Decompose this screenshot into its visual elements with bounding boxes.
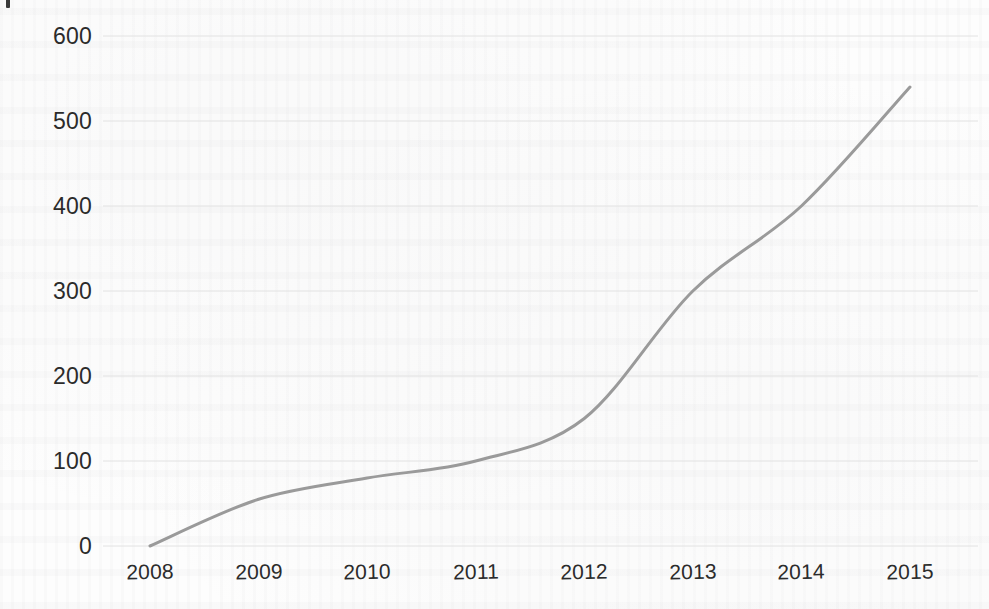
y-tick-label-200: 200 bbox=[0, 363, 92, 390]
y-tick-label-0: 0 bbox=[0, 533, 92, 560]
x-tick-label-2012: 2012 bbox=[560, 560, 608, 585]
y-tick-label-100: 100 bbox=[0, 448, 92, 475]
gridlines bbox=[103, 36, 978, 546]
y-tick-label-300: 300 bbox=[0, 278, 92, 305]
series-line-0 bbox=[150, 87, 910, 546]
x-tick-label-2013: 2013 bbox=[669, 560, 717, 585]
line-chart: 0100200300400500600 20082009201020112012… bbox=[0, 0, 989, 609]
y-tick-label-500: 500 bbox=[0, 108, 92, 135]
x-tick-label-2011: 2011 bbox=[452, 560, 498, 585]
x-tick-label-2008: 2008 bbox=[126, 560, 174, 585]
x-tick-label-2014: 2014 bbox=[777, 560, 825, 585]
x-tick-label-2010: 2010 bbox=[343, 560, 391, 585]
chart-page: 0100200300400500600 20082009201020112012… bbox=[0, 0, 989, 609]
chart-plot-svg bbox=[0, 0, 989, 609]
y-tick-label-600: 600 bbox=[0, 23, 92, 50]
y-tick-label-400: 400 bbox=[0, 193, 92, 220]
x-tick-label-2009: 2009 bbox=[235, 560, 283, 585]
x-tick-label-2015: 2015 bbox=[886, 560, 934, 585]
